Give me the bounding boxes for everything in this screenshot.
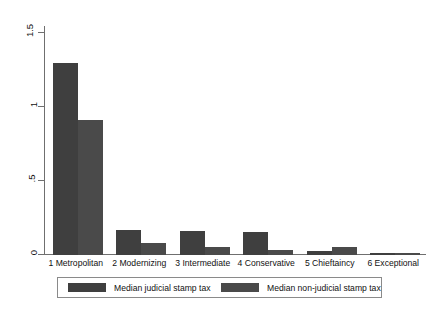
x-axis-label: 4 Conservative: [235, 258, 299, 268]
bar: [395, 253, 420, 255]
y-axis-tick-label-text: 1.5: [24, 24, 35, 37]
x-axis-label: 3 Intermediate: [171, 258, 235, 268]
bar: [307, 251, 332, 255]
legend-entry: Median judicial stamp tax: [68, 278, 211, 297]
bar: [268, 250, 293, 255]
bar: [370, 253, 395, 255]
bar-group: [370, 26, 420, 255]
bar: [141, 243, 166, 255]
y-axis-tick-label-text: .5: [27, 175, 38, 183]
bar: [53, 63, 78, 255]
bar: [205, 247, 230, 255]
y-axis-tick-label: 0: [0, 247, 36, 258]
legend-label: Median judicial stamp tax: [114, 283, 211, 293]
bar-group: [180, 26, 230, 255]
x-axis-label: 1 Metropolitan: [44, 258, 108, 268]
y-axis-tick-label: 1: [0, 99, 36, 110]
y-axis-tick-label-text: 1: [28, 102, 39, 107]
x-axis-label: 5 Chieftaincy: [298, 258, 362, 268]
y-axis-tick-label: 1.5: [0, 25, 36, 36]
bar: [116, 230, 141, 255]
bar-group: [53, 26, 103, 255]
x-axis-label: 6 Exceptional: [362, 258, 426, 268]
legend-entry: Median non-judicial stamp tax: [221, 278, 381, 297]
bar: [332, 247, 357, 255]
x-axis-label: 2 Modernizing: [108, 258, 172, 268]
bar: [243, 232, 268, 255]
legend-label: Median non-judicial stamp tax: [267, 283, 381, 293]
bar: [78, 120, 103, 255]
bar-chart: 0.511.5 1 Metropolitan2 Modernizing3 Int…: [0, 0, 437, 316]
legend-swatch: [68, 283, 106, 292]
y-axis-tick-label: .5: [0, 173, 36, 184]
bar-group: [307, 26, 357, 255]
plot-area: [44, 26, 425, 255]
y-axis-tick-label-text: 0: [28, 250, 39, 255]
bar-group: [116, 26, 166, 255]
bar-group: [243, 26, 293, 255]
legend: Median judicial stamp taxMedian non-judi…: [57, 277, 382, 298]
bar: [180, 231, 205, 255]
legend-swatch: [221, 283, 259, 292]
